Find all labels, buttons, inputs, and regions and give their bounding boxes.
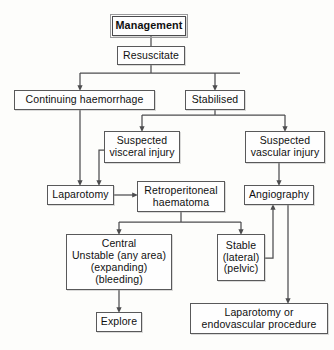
node-central-line: (bleeding) [95, 274, 143, 286]
flowchart-canvas: ManagementResuscitateContinuing haemorrh… [0, 0, 334, 350]
node-lap_endo-line: Laparotomy or [224, 307, 293, 319]
node-retro: Retroperitonealhaematoma [137, 181, 225, 212]
node-retro-line: haematoma [153, 197, 209, 209]
node-vascular: Suspectedvascular injury [245, 131, 325, 163]
node-retro-line: Retroperitoneal [144, 185, 217, 197]
node-visceral-line: visceral injury [109, 147, 174, 159]
node-lap_endo: Laparotomy orendovascular procedure [190, 303, 328, 334]
node-resuscitate: Resuscitate [117, 46, 185, 65]
node-stable-line: Stable [226, 240, 256, 252]
node-visceral: Suspectedvisceral injury [104, 131, 180, 163]
node-vascular-line: vascular injury [251, 147, 320, 159]
node-stabilised: Stabilised [185, 90, 245, 110]
node-stable-line: (pelvic) [224, 263, 259, 275]
node-management: Management [112, 16, 186, 36]
node-resuscitate-line: Resuscitate [123, 50, 179, 62]
node-stabilised-line: Stabilised [192, 94, 239, 106]
node-continuing-line: Continuing haemorrhage [26, 94, 144, 106]
node-continuing: Continuing haemorrhage [14, 90, 155, 110]
node-management-line: Management [116, 20, 183, 32]
node-laparotomy: Laparotomy [47, 185, 114, 205]
node-explore: Explore [96, 312, 142, 332]
node-lap_endo-line: endovascular procedure [202, 319, 317, 331]
node-laparotomy-line: Laparotomy [52, 189, 108, 201]
node-explore-line: Explore [101, 316, 137, 328]
node-stable: Stable(lateral)(pelvic) [217, 234, 265, 281]
edge-stable-angiography [265, 207, 273, 258]
node-central: CentralUnstable (any area)(expanding)(bl… [66, 234, 172, 290]
node-angiography-line: Angiography [249, 189, 309, 201]
node-angiography: Angiography [244, 185, 314, 205]
